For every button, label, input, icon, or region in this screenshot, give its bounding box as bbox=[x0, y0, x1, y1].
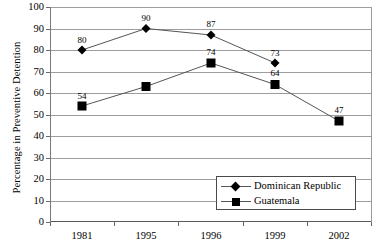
legend-item-guatemala: Guatemala bbox=[221, 194, 351, 209]
marker-dominican-republic-1995 bbox=[142, 24, 151, 33]
marker-guatemala-1996 bbox=[207, 59, 216, 68]
data-label-guatemala-1981: 54 bbox=[67, 92, 97, 101]
series-line-guatemala bbox=[82, 63, 339, 121]
marker-guatemala-1999 bbox=[271, 80, 280, 89]
data-label-guatemala-1999: 64 bbox=[260, 69, 290, 78]
data-label-dominican-republic-1995: 90 bbox=[131, 14, 161, 23]
data-label-dominican-republic-1996: 87 bbox=[196, 20, 226, 29]
series-plot bbox=[0, 0, 383, 248]
data-label-dominican-republic-1981: 80 bbox=[67, 36, 97, 45]
marker-guatemala-1981 bbox=[78, 102, 87, 111]
square-marker-icon bbox=[221, 196, 251, 208]
legend-item-dominican-republic: Dominican Republic bbox=[221, 179, 351, 194]
data-label-guatemala-2002: 47 bbox=[324, 106, 354, 115]
data-label-guatemala-1996: 74 bbox=[196, 48, 226, 57]
series-line-dominican-republic bbox=[82, 29, 275, 64]
diamond-marker-icon bbox=[221, 181, 251, 193]
marker-guatemala-2002 bbox=[335, 117, 344, 126]
marker-dominican-republic-1996 bbox=[207, 31, 216, 40]
marker-guatemala-1995 bbox=[142, 82, 151, 91]
marker-dominican-republic-1981 bbox=[78, 46, 87, 55]
data-label-dominican-republic-1999: 73 bbox=[260, 49, 290, 58]
line-chart: Percentage in Preventive Detention 100 9… bbox=[0, 0, 383, 248]
legend-label-guatemala: Guatemala bbox=[251, 196, 299, 207]
marker-dominican-republic-1999 bbox=[271, 59, 280, 68]
legend-label-dominican-republic: Dominican Republic bbox=[251, 181, 341, 192]
chart-legend: Dominican Republic Guatemala bbox=[216, 176, 356, 210]
